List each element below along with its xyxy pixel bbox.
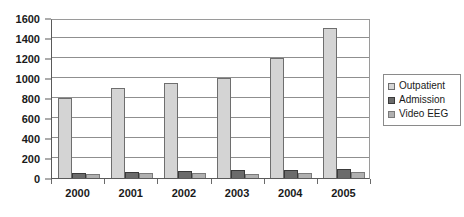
- x-axis-tick-label-2001: 2001: [119, 187, 143, 199]
- y-axis-tick-label: 1200: [16, 53, 40, 65]
- bar-admission-2004: [284, 170, 298, 178]
- x-axis-tick-label-2003: 2003: [225, 187, 249, 199]
- y-axis-tick-label: 600: [22, 113, 40, 125]
- bar-outpatient-2002: [164, 83, 178, 178]
- plot-area: [51, 19, 370, 179]
- y-axis-tick-label: 1400: [16, 33, 40, 45]
- y-axis-tick-label: 400: [22, 133, 40, 145]
- x-axis-tick-mark: [104, 179, 105, 184]
- bar-chart-figure: 02004006008001000120014001600 2000200120…: [0, 0, 464, 217]
- bar-admission-2000: [72, 173, 86, 179]
- x-axis-tick-mark: [157, 179, 158, 184]
- bar-group-2002: [158, 20, 211, 178]
- bar-admission-2005: [337, 169, 351, 178]
- chart-legend: OutpatientAdmissionVideo EEG: [383, 74, 461, 126]
- bar-group-2003: [212, 20, 265, 178]
- legend-item-list: OutpatientAdmissionVideo EEG: [388, 79, 457, 121]
- legend-label: Video EEG: [399, 109, 448, 119]
- legend-item-outpatient: Outpatient: [388, 79, 457, 93]
- legend-item-admission: Admission: [388, 93, 457, 107]
- bar-video-eeg-2002: [192, 173, 206, 178]
- legend-swatch-icon: [388, 111, 395, 118]
- legend-swatch-icon: [388, 83, 395, 90]
- bar-outpatient-2001: [111, 88, 125, 178]
- bar-outpatient-2005: [323, 28, 337, 178]
- bar-outpatient-2003: [217, 78, 231, 178]
- legend-label: Admission: [399, 95, 445, 105]
- legend-label: Outpatient: [399, 81, 445, 91]
- bar-video-eeg-2005: [351, 172, 365, 178]
- y-axis-tick-label: 200: [22, 153, 40, 165]
- bar-video-eeg-2004: [298, 173, 312, 179]
- x-axis-tick-mark: [264, 179, 265, 184]
- y-axis-tick-label: 1000: [16, 73, 40, 85]
- x-axis-tick-mark: [211, 179, 212, 184]
- bar-video-eeg-2001: [139, 173, 153, 178]
- bar-video-eeg-2000: [86, 174, 100, 178]
- bar-outpatient-2004: [270, 58, 284, 178]
- x-axis-tick-label-2005: 2005: [331, 187, 355, 199]
- x-axis-tick-label-2004: 2004: [278, 187, 302, 199]
- bar-video-eeg-2003: [245, 174, 259, 179]
- bar-group-2005: [318, 20, 371, 178]
- legend-item-video-eeg: Video EEG: [388, 107, 457, 121]
- x-axis-tick-mark: [370, 179, 371, 184]
- y-axis-tick-label: 1600: [16, 13, 40, 25]
- x-axis: 200020012002200320042005: [51, 179, 370, 209]
- y-axis-tick-label: 800: [22, 93, 40, 105]
- bar-group-2000: [52, 20, 105, 178]
- x-axis-tick-label-2002: 2002: [172, 187, 196, 199]
- bar-admission-2002: [178, 171, 192, 178]
- x-axis-tick-label-2000: 2000: [65, 187, 89, 199]
- x-axis-tick-mark: [317, 179, 318, 184]
- bar-admission-2003: [231, 170, 245, 178]
- bar-group-2004: [265, 20, 318, 178]
- x-axis-tick-mark: [51, 179, 52, 184]
- y-axis: 02004006008001000120014001600: [0, 19, 51, 179]
- bar-outpatient-2000: [58, 98, 72, 178]
- bar-group-2001: [105, 20, 158, 178]
- bar-admission-2001: [125, 172, 139, 179]
- y-axis-tick-label: 0: [34, 173, 40, 185]
- bars-layer: [52, 20, 369, 178]
- legend-swatch-icon: [388, 97, 395, 104]
